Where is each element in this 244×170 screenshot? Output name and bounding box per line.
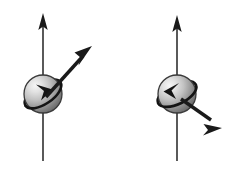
spin-diagram-svg <box>0 0 244 170</box>
diagram-canvas <box>0 0 244 170</box>
